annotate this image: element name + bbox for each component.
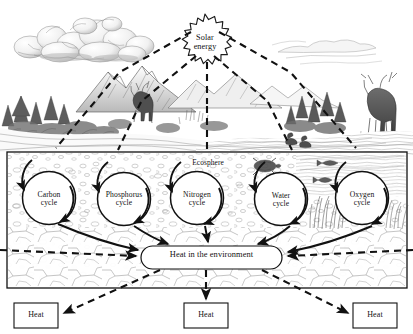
diagram-canvas xyxy=(0,0,413,334)
ecosystem-diagram: Solar energy Ecosphere Carbon cycle Phos… xyxy=(0,0,413,334)
heat-in-environment-box xyxy=(141,246,282,269)
heat-output-boxes xyxy=(14,303,397,328)
